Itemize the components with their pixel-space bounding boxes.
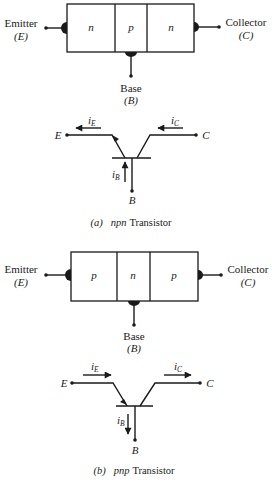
npn-base-contact xyxy=(125,52,137,57)
pnp-caption: (b)pnpTransistor xyxy=(93,465,175,477)
npn-symbol-base-terminal xyxy=(130,189,134,193)
npn-emitter-terminal xyxy=(44,26,48,30)
npn-region-base: p xyxy=(127,21,134,33)
pnp-circuit-symbol: E C B iE iC iB xyxy=(60,360,215,456)
pnp-emitter-contact xyxy=(65,269,71,281)
npn-emitter-symbol: (E) xyxy=(14,30,28,43)
npn-symbol-C-label: C xyxy=(202,129,210,141)
pnp-emitter-label: Emitter xyxy=(5,263,38,275)
npn-region-collector: n xyxy=(168,21,174,33)
pnp-block-diagram: p n p Emitter (E) Collector (C) Base (B) xyxy=(5,252,269,355)
pnp-symbol-B-label: B xyxy=(132,444,139,456)
npn-symbol-collector-terminal xyxy=(194,133,198,137)
pnp-collector-wire xyxy=(140,383,200,406)
pnp-collector-contact xyxy=(198,270,203,280)
pnp-base-symbol: (B) xyxy=(127,342,141,355)
npn-symbol-B-label: B xyxy=(129,194,136,206)
pnp-emitter-wire xyxy=(72,383,127,406)
npn-block-diagram: n p n Emitter (E) Collector (C) Base (B) xyxy=(5,4,267,107)
npn-emitter-contact xyxy=(61,22,67,34)
npn-iC-label: iC xyxy=(171,114,180,128)
pnp-region-emitter: p xyxy=(90,269,97,281)
npn-iE-label: iE xyxy=(88,114,96,128)
npn-emitter-label: Emitter xyxy=(5,17,38,29)
pnp-iB-label: iB xyxy=(117,414,125,428)
npn-region-emitter: n xyxy=(88,21,94,33)
transistor-figure: n p n Emitter (E) Collector (C) Base (B) xyxy=(0,0,272,491)
npn-collector-label: Collector xyxy=(226,16,267,28)
npn-collector-wire xyxy=(137,135,196,158)
pnp-emitter-symbol: (E) xyxy=(14,276,28,289)
npn-circuit-symbol: E C B iE iC iB xyxy=(54,114,211,206)
pnp-region-base: n xyxy=(130,269,136,281)
npn-collector-contact xyxy=(194,22,199,32)
pnp-collector-label: Collector xyxy=(228,263,269,275)
pnp-base-label: Base xyxy=(123,330,145,342)
npn-emitter-arrow-icon xyxy=(112,135,119,142)
npn-symbol-emitter-terminal xyxy=(65,133,69,137)
npn-base-label: Base xyxy=(120,82,142,94)
npn-base-terminal xyxy=(129,74,133,78)
pnp-iC-label: iC xyxy=(174,360,183,374)
pnp-base-contact xyxy=(128,301,140,306)
pnp-collector-terminal xyxy=(219,273,223,277)
npn-iB-label: iB xyxy=(112,168,120,182)
pnp-collector-symbol: (C) xyxy=(241,276,256,289)
pnp-symbol-collector-terminal xyxy=(198,381,202,385)
pnp-iE-label: iE xyxy=(91,360,99,374)
npn-base-symbol: (B) xyxy=(124,94,138,107)
npn-symbol-E-label: E xyxy=(54,129,62,141)
npn-caption: (a)npnTransistor xyxy=(90,217,172,229)
pnp-emitter-arrow-icon xyxy=(120,399,127,405)
pnp-symbol-E-label: E xyxy=(60,377,68,389)
pnp-region-collector: p xyxy=(170,269,177,281)
pnp-symbol-base-terminal xyxy=(133,438,137,442)
pnp-base-terminal xyxy=(132,323,136,327)
npn-collector-symbol: (C) xyxy=(239,29,254,42)
pnp-emitter-terminal xyxy=(44,273,48,277)
pnp-symbol-C-label: C xyxy=(206,377,214,389)
npn-collector-terminal xyxy=(217,25,221,29)
pnp-symbol-emitter-terminal xyxy=(70,381,74,385)
